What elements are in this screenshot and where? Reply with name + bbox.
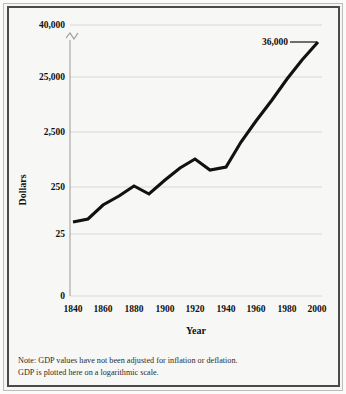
x-tick-1920: 1920: [186, 304, 205, 314]
figure-notes: Note: GDP values have not been adjusted …: [18, 356, 238, 377]
x-tick-1960: 1960: [247, 304, 266, 314]
y-axis-title: Dollars: [17, 174, 28, 205]
y-tick-2500: 2,500: [44, 127, 66, 137]
x-tick-1860: 1860: [94, 304, 113, 314]
y-tick-40000: 40,000: [39, 20, 65, 30]
x-axis-title: Year: [186, 325, 207, 336]
y-tick-labels: 40,000 25,000 2,500 250 25 0: [39, 20, 65, 301]
x-tick-labels: 1840 1860 1880 1900 1920 1940 1960 1980 …: [64, 304, 327, 314]
y-tick-0: 0: [60, 291, 65, 301]
y-axis: [66, 33, 78, 296]
axis-break-icon: [66, 33, 78, 39]
x-tick-1980: 1980: [278, 304, 297, 314]
chart-svg: 40,000 25,000 2,500 250 25 0 Dollars 184…: [0, 0, 346, 394]
x-tick-1880: 1880: [125, 304, 144, 314]
x-tick-2000: 2000: [308, 304, 327, 314]
x-tick-1840: 1840: [64, 304, 83, 314]
x-tick-1900: 1900: [156, 304, 175, 314]
y-tick-250: 250: [51, 182, 66, 192]
gdp-line-chart: 40,000 25,000 2,500 250 25 0 Dollars 184…: [0, 0, 346, 394]
note-line-2: GDP is plotted here on a logarithmic sca…: [18, 368, 159, 377]
y-tick-25000: 25,000: [39, 72, 65, 82]
data-label-36000: 36,000: [262, 37, 288, 47]
note-line-1: Note: GDP values have not been adjusted …: [18, 356, 238, 365]
figure-container: 40,000 25,000 2,500 250 25 0 Dollars 184…: [0, 0, 346, 394]
endpoint-annotation: 36,000: [262, 37, 317, 47]
x-tick-1940: 1940: [217, 304, 236, 314]
y-tick-25: 25: [56, 229, 66, 239]
